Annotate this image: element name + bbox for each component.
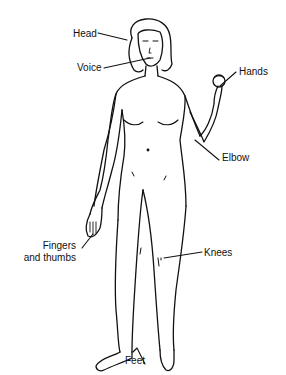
label-elbow: Elbow [222, 152, 249, 163]
label-feet: Feet [125, 355, 145, 366]
leader-head [98, 33, 127, 40]
leader-voice [104, 58, 150, 68]
body-diagram: Head Voice Hands Elbow Fingers and thumb… [0, 0, 286, 375]
left-hand [86, 208, 102, 237]
label-knees: Knees [204, 247, 232, 258]
label-fingers-line2: and thumbs [16, 252, 76, 263]
left-leg [115, 220, 120, 352]
label-hands: Hands [239, 66, 268, 77]
label-head: Head [73, 28, 97, 39]
human-figure-illustration [0, 0, 286, 375]
right-foot [160, 350, 174, 371]
hair-outline [131, 19, 172, 71]
right-leg [143, 190, 160, 350]
label-fingers-line1: Fingers [36, 240, 76, 251]
label-voice: Voice [77, 62, 101, 73]
leader-hands [220, 72, 236, 86]
leader-elbow [195, 140, 219, 160]
leader-knees [164, 252, 202, 258]
raised-arm [200, 86, 218, 136]
